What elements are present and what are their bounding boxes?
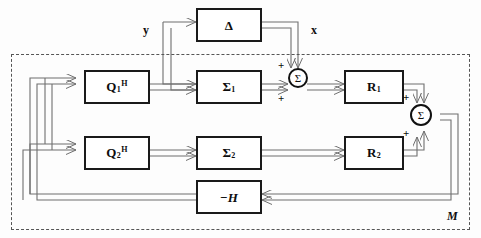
block-r1-label: R1	[367, 80, 381, 95]
block-q2-hermitian-label: Q2H	[106, 146, 127, 161]
block-sigma1[interactable]: Σ1	[196, 70, 262, 104]
summing-junction-right[interactable]: Σ	[410, 104, 432, 126]
block-r2[interactable]: R2	[344, 136, 404, 170]
block-q1-hermitian-label: Q1H	[106, 80, 127, 95]
sign-plus-sum-right-top: +	[403, 92, 409, 103]
signal-label-x: x	[311, 24, 317, 36]
sign-plus-sum-right-bottom: +	[403, 128, 409, 139]
sign-plus-sum-left-top: +	[278, 60, 284, 71]
summing-junction-right-glyph: Σ	[418, 110, 424, 121]
boundary-label-m: M	[447, 210, 458, 222]
block-delta[interactable]: Δ	[196, 8, 262, 42]
block-minus-h-label: −H	[220, 191, 238, 204]
block-diagram: Δ Q1H Σ1 R1 Q2H Σ2 R2 −H Σ Σ y x + + + +…	[0, 0, 481, 238]
sign-plus-sum-left-bottom: +	[278, 93, 284, 104]
block-sigma2-label: Σ2	[222, 146, 235, 161]
block-minus-h[interactable]: −H	[196, 180, 262, 214]
summing-junction-left-glyph: Σ	[295, 73, 301, 84]
block-sigma1-label: Σ1	[222, 80, 235, 95]
block-sigma2[interactable]: Σ2	[196, 136, 262, 170]
summing-junction-left[interactable]: Σ	[288, 68, 308, 88]
signal-label-y: y	[143, 24, 149, 36]
block-q1-hermitian[interactable]: Q1H	[84, 70, 150, 104]
block-delta-label: Δ	[225, 19, 233, 32]
block-r1[interactable]: R1	[344, 70, 404, 104]
block-q2-hermitian[interactable]: Q2H	[84, 136, 150, 170]
block-r2-label: R2	[367, 146, 381, 161]
